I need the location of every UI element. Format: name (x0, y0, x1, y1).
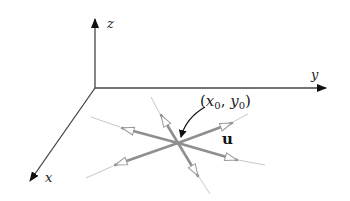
point-label-close: ) (245, 92, 251, 110)
point-label-sep: , (221, 92, 231, 110)
x-axis-label: x (45, 170, 53, 185)
point-pointer-arrow (181, 107, 205, 137)
z-axis-label: z (106, 16, 114, 31)
extension-line (199, 177, 210, 194)
extension-line (233, 114, 248, 122)
diagram-canvas: z y x (x0, y0) u (0, 0, 350, 201)
vector-u-label: u (222, 130, 233, 148)
extension-line (86, 166, 113, 178)
extension-line (91, 117, 120, 127)
y-axis-label: y (310, 67, 319, 82)
direction-arrow-down-left (115, 143, 178, 165)
direction-extension-lines (86, 97, 265, 194)
point-label: (x0, y0) (200, 92, 251, 111)
extension-line (151, 97, 160, 114)
extension-line (238, 160, 265, 165)
x-axis (30, 88, 95, 181)
direction-arrows (115, 115, 237, 176)
coordinate-axes (30, 19, 326, 181)
